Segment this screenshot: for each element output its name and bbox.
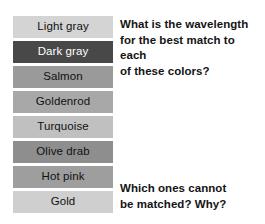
color-swatch-label: Turquoise (37, 121, 89, 133)
color-swatch-label: Olive drab (36, 146, 89, 158)
color-swatch-label: Gold (51, 196, 76, 208)
color-swatch: Turquoise (13, 116, 113, 138)
question-wavelength-text: What is the wavelength for the best matc… (120, 17, 262, 79)
question-cannot-be-matched-text: Which ones cannot be matched? Why? (120, 181, 262, 212)
color-swatch: Light gray (13, 16, 113, 38)
color-swatch: Salmon (13, 66, 113, 88)
color-swatch: Olive drab (13, 141, 113, 163)
color-swatch-label: Hot pink (42, 171, 85, 183)
color-swatch: Goldenrod (13, 91, 113, 113)
color-swatch: Gold (13, 191, 113, 213)
color-swatch-label: Goldenrod (36, 96, 91, 108)
color-swatch-label: Salmon (43, 71, 83, 83)
color-swatch: Dark gray (13, 41, 113, 63)
slide-canvas: Light grayDark graySalmonGoldenrodTurquo… (0, 0, 265, 224)
color-swatch: Hot pink (13, 166, 113, 188)
color-swatch-label: Light gray (37, 21, 89, 33)
color-swatch-list: Light grayDark graySalmonGoldenrodTurquo… (13, 16, 113, 216)
color-swatch-label: Dark gray (38, 46, 89, 58)
